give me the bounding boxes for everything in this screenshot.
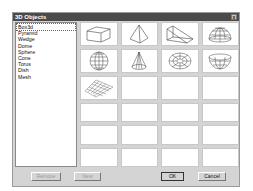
empty-thumbnail-slot [80, 148, 118, 167]
empty-thumbnail-slot [202, 148, 240, 167]
empty-thumbnail-slot [121, 76, 159, 100]
empty-thumbnail-slot [80, 125, 118, 144]
cone-icon [122, 50, 156, 72]
thumbnail-grid [80, 22, 239, 167]
wedge-icon [163, 23, 197, 45]
empty-thumbnail-slot [121, 148, 159, 167]
thumbnail-dish[interactable] [202, 49, 240, 73]
mesh-icon [82, 77, 116, 99]
empty-thumbnail-slot [202, 76, 240, 100]
empty-thumbnail-slot [161, 148, 199, 167]
dome-icon [203, 23, 237, 45]
dish-icon [203, 50, 237, 72]
thumbnail-mesh[interactable] [80, 76, 118, 100]
pyramid-icon [122, 23, 156, 45]
empty-thumbnail-slot [161, 103, 199, 122]
empty-thumbnail-slot [121, 103, 159, 122]
object-listbox[interactable]: Box3d Pyramid Wedge Dome Sphere Cone Tor… [15, 22, 77, 167]
close-button[interactable]: x [231, 14, 237, 20]
thumbnail-pyramid[interactable] [121, 22, 159, 46]
dialog-title: 3D Objects [15, 14, 46, 20]
thumbnail-wedge[interactable] [161, 22, 199, 46]
remove-button[interactable]: Remove [31, 172, 61, 181]
thumbnail-box[interactable] [80, 22, 118, 46]
empty-thumbnail-slot [80, 103, 118, 122]
new-button[interactable]: New [74, 172, 101, 181]
empty-thumbnail-slot [161, 76, 199, 100]
thumbnail-torus[interactable] [161, 49, 199, 73]
empty-thumbnail-slot [202, 103, 240, 122]
3d-objects-dialog: 3D Objects x Box3d Pyramid Wedge Dome Sp… [12, 12, 240, 187]
cancel-button[interactable]: Cancel [198, 172, 226, 181]
box-icon [82, 23, 116, 45]
torus-icon [163, 50, 197, 72]
ok-button[interactable]: OK [161, 172, 184, 181]
empty-thumbnail-slot [161, 125, 199, 144]
thumbnail-dome[interactable] [202, 22, 240, 46]
empty-thumbnail-slot [202, 125, 240, 144]
thumbnail-sphere[interactable] [80, 49, 118, 73]
thumbnail-cone[interactable] [121, 49, 159, 73]
list-item-mesh[interactable]: Mesh [17, 74, 75, 80]
sphere-icon [82, 50, 116, 72]
empty-thumbnail-slot [121, 125, 159, 144]
title-bar: 3D Objects x [13, 13, 239, 21]
